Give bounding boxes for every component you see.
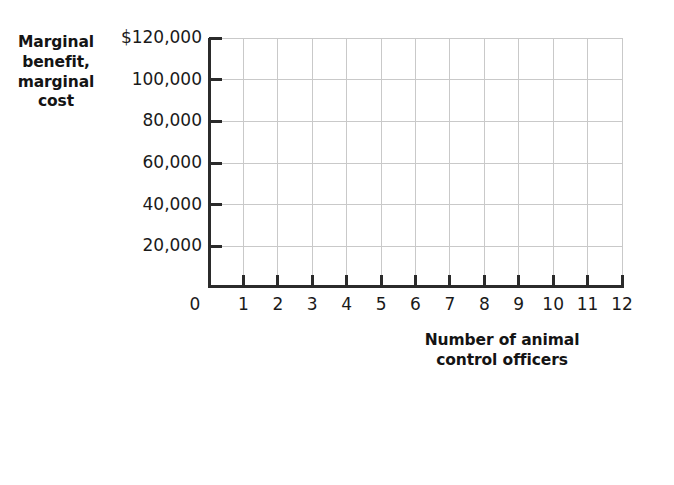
- y-axis-tick-labels: $120,000100,00080,00060,00040,00020,0000: [108, 0, 202, 485]
- chart-figure: Marginal benefit, marginal cost $120,000…: [0, 0, 674, 485]
- x-axis-title-line-1: Number of animal: [372, 330, 632, 350]
- plot-area: [209, 38, 622, 288]
- y-axis-title: Marginal benefit, marginal cost: [4, 33, 108, 112]
- y-axis-tick-label: 20,000: [108, 237, 202, 254]
- x-axis-tick-label: 0: [175, 296, 215, 313]
- y-axis-title-line-4: cost: [4, 92, 108, 112]
- y-axis-tick-label: $120,000: [108, 29, 202, 46]
- x-axis-title-line-2: control officers: [372, 350, 632, 370]
- y-axis-tick-label: 60,000: [108, 154, 202, 171]
- x-axis-tick-labels: 0123456789101112: [0, 296, 674, 320]
- y-axis-tick-label: 100,000: [108, 71, 202, 88]
- x-axis-title: Number of animal control officers: [372, 330, 632, 370]
- y-axis-title-line-1: Marginal: [4, 33, 108, 53]
- axis-lines: [209, 38, 622, 288]
- y-axis-title-line-2: benefit,: [4, 53, 108, 73]
- x-axis-tick-label: 12: [602, 296, 642, 313]
- y-axis-tick-label: 80,000: [108, 112, 202, 129]
- y-axis-tick-label: 40,000: [108, 196, 202, 213]
- y-axis-title-line-3: marginal: [4, 73, 108, 93]
